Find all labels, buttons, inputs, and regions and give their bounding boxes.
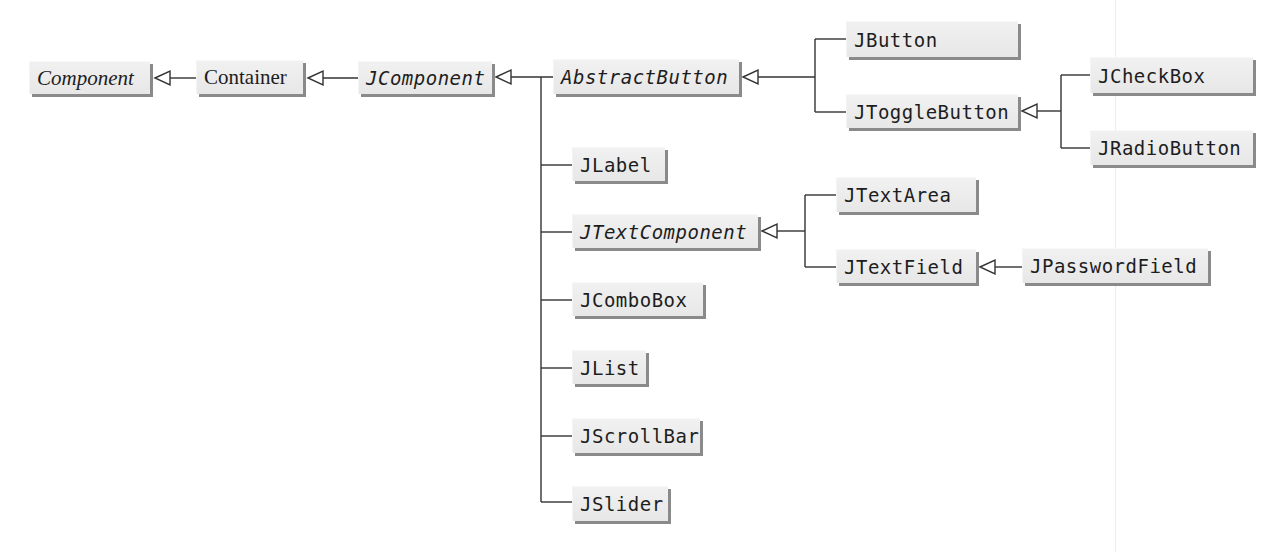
class-box-jtextarea: JTextArea — [836, 177, 976, 212]
class-label: JList — [580, 357, 640, 379]
arrowhead-to-jtogglebutton — [1022, 104, 1037, 118]
arrowhead-to-container — [308, 71, 323, 85]
class-box-component: Component — [29, 61, 150, 94]
class-box-jlabel: JLabel — [572, 147, 665, 181]
class-label: JCheckBox — [1098, 65, 1205, 87]
class-label: JPasswordField — [1030, 255, 1197, 277]
class-box-jlist: JList — [572, 350, 646, 384]
class-hierarchy-diagram: Component Container JComponent AbstractB… — [0, 0, 1282, 552]
class-box-jbutton: JButton — [846, 21, 1018, 57]
class-label: JScrollBar — [580, 425, 699, 447]
class-label: JSlider — [580, 493, 664, 515]
arrowhead-to-jcomponent — [496, 70, 511, 84]
class-box-abstractbutton: AbstractButton — [553, 59, 739, 94]
class-box-container: Container — [196, 60, 303, 94]
class-label: AbstractButton — [561, 66, 728, 88]
class-box-jcheckbox: JCheckBox — [1090, 57, 1253, 93]
class-label: JTextField — [844, 256, 963, 278]
class-label: JToggleButton — [854, 101, 1009, 123]
class-label: JButton — [854, 29, 938, 51]
class-box-jcombobox: JComboBox — [572, 282, 703, 316]
class-box-jpasswordfield: JPasswordField — [1022, 248, 1208, 283]
class-box-jtogglebutton: JToggleButton — [846, 94, 1018, 128]
class-box-jradiobutton: JRadioButton — [1090, 130, 1253, 165]
class-label: JRadioButton — [1098, 137, 1241, 159]
arrowhead-to-jtextfield — [980, 260, 995, 274]
class-label: JComponent — [366, 67, 485, 89]
class-label: Container — [204, 65, 287, 90]
arrowhead-to-jtextcomponent — [762, 224, 777, 238]
arrowhead-to-component — [155, 71, 170, 85]
class-label: JTextArea — [844, 184, 951, 206]
class-label: JTextComponent — [580, 221, 747, 243]
class-box-jcomponent: JComponent — [358, 61, 492, 94]
arrowhead-to-abstractbutton — [743, 70, 758, 84]
class-box-jtextcomponent: JTextComponent — [572, 214, 758, 248]
class-box-jscrollbar: JScrollBar — [572, 418, 700, 453]
class-label: JLabel — [580, 154, 652, 176]
class-label: Component — [37, 66, 134, 91]
class-box-jtextfield: JTextField — [836, 249, 976, 283]
class-box-jslider: JSlider — [572, 486, 668, 521]
class-label: JComboBox — [580, 289, 687, 311]
